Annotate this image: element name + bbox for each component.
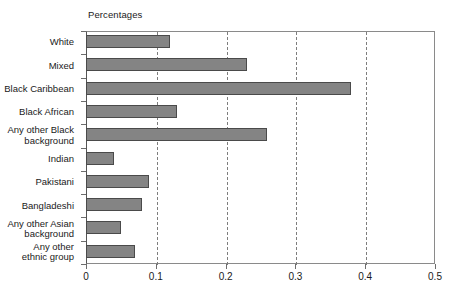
bar-row: [86, 78, 435, 101]
x-axis-label: 0.4: [358, 271, 372, 282]
chart-title: Percentages: [88, 9, 142, 20]
bar-row: [86, 31, 435, 54]
bars-container: [86, 31, 435, 264]
bar-row: [86, 54, 435, 77]
y-axis-label: Indian: [48, 154, 74, 165]
bar: [86, 128, 267, 141]
bar-row: [86, 148, 435, 171]
x-axis-label: 0.5: [428, 271, 442, 282]
bar: [86, 198, 142, 211]
x-axis-tick: [295, 264, 296, 269]
bar-row: [86, 194, 435, 217]
bar: [86, 58, 247, 71]
y-axis-label: Black African: [19, 107, 74, 118]
x-axis-tick: [156, 264, 157, 269]
y-axis-label: Mixed: [49, 61, 74, 72]
bar-row: [86, 217, 435, 240]
bar: [86, 245, 135, 258]
x-axis-tick: [86, 264, 87, 269]
x-axis-tick: [435, 264, 436, 269]
bar: [86, 35, 170, 48]
bar: [86, 175, 149, 188]
y-axis-label: Any other ethnic group: [22, 242, 74, 263]
y-axis-label: Any other Asian background: [7, 219, 74, 240]
bar: [86, 152, 114, 165]
x-axis-label: 0.2: [219, 271, 233, 282]
bar: [86, 221, 121, 234]
x-axis-label: 0.3: [288, 271, 302, 282]
bar-row: [86, 101, 435, 124]
bar-row: [86, 241, 435, 264]
bar: [86, 105, 177, 118]
bar-chart: Percentages WhiteMixedBlack CaribbeanBla…: [0, 0, 458, 290]
y-axis-label: Any other Black background: [7, 125, 74, 146]
bar: [86, 82, 351, 95]
bar-row: [86, 124, 435, 147]
x-axis-label: 0: [83, 271, 89, 282]
bar-row: [86, 171, 435, 194]
x-axis-label: 0.1: [149, 271, 163, 282]
y-axis-label: Pakistani: [35, 177, 74, 188]
y-axis-label: Black Caribbean: [4, 84, 74, 95]
x-axis-tick: [226, 264, 227, 269]
y-axis-labels: WhiteMixedBlack CaribbeanBlack AfricanAn…: [0, 31, 82, 264]
y-axis-label: Bangladeshi: [22, 201, 74, 212]
x-axis-tick: [365, 264, 366, 269]
y-axis-label: White: [50, 37, 74, 48]
